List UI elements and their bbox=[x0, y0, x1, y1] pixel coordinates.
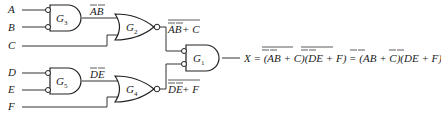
gate-subscript: 3 bbox=[64, 19, 68, 27]
gate-g2: G 2 bbox=[115, 14, 160, 40]
circuit-svg: A B C D E F G 3 G 2 G 5 G bbox=[0, 0, 441, 117]
svg-text:+ C: + C bbox=[182, 23, 200, 35]
gate-subscript: 5 bbox=[64, 82, 68, 90]
label-g4-output: DE + F bbox=[167, 80, 200, 95]
gate-label: G bbox=[126, 21, 134, 33]
gate-label: G bbox=[193, 52, 201, 64]
svg-text:AB: AB bbox=[167, 23, 182, 35]
inverter-bubble-icon bbox=[154, 86, 160, 92]
gate-g3: G 3 bbox=[46, 5, 82, 31]
gate-label: G bbox=[56, 12, 64, 24]
input-label-a: A bbox=[7, 3, 15, 15]
inverter-bubble-icon bbox=[182, 62, 187, 67]
gate-subscript: 2 bbox=[134, 28, 138, 36]
input-label-b: B bbox=[8, 21, 15, 33]
gate-label: G bbox=[56, 75, 64, 87]
svg-text:DE: DE bbox=[167, 83, 183, 95]
wire-f bbox=[22, 97, 119, 107]
inverter-bubble-icon bbox=[46, 88, 51, 93]
gate-subscript: 1 bbox=[201, 59, 205, 67]
svg-text:X = (AB + C)(DE + F) = (AB + C: X = (AB + C)(DE + F) = (AB + C)(DE + F) bbox=[243, 52, 441, 65]
inverter-bubble-icon bbox=[154, 24, 160, 30]
svg-text:AB: AB bbox=[89, 5, 104, 17]
wire-c bbox=[22, 35, 119, 46]
label-g5-output: DE bbox=[89, 68, 105, 80]
input-label-d: D bbox=[7, 66, 16, 78]
gate-label: G bbox=[126, 83, 134, 95]
inverter-bubble-icon bbox=[182, 49, 187, 54]
gate-g5: G 5 bbox=[46, 68, 82, 94]
svg-text:+ F: + F bbox=[182, 83, 199, 95]
inverter-bubble-icon bbox=[46, 71, 51, 76]
label-g3-output: AB bbox=[89, 5, 105, 17]
logic-circuit-diagram: A B C D E F G 3 G 2 G 5 G bbox=[0, 0, 441, 117]
gate-g4: G 4 bbox=[115, 76, 160, 102]
inverter-bubble-icon bbox=[46, 8, 51, 13]
input-label-e: E bbox=[7, 83, 15, 95]
gate-g1: G 1 bbox=[182, 45, 220, 71]
svg-text:DE: DE bbox=[89, 68, 105, 80]
gate-subscript: 4 bbox=[134, 90, 138, 98]
input-label-c: C bbox=[8, 39, 16, 51]
input-label-f: F bbox=[7, 100, 15, 112]
label-g2-output: AB + C bbox=[167, 20, 200, 35]
inverter-bubble-icon bbox=[46, 25, 51, 30]
output-equation: X = (AB + C)(DE + F) = (AB + C)(DE + F) bbox=[243, 47, 441, 65]
